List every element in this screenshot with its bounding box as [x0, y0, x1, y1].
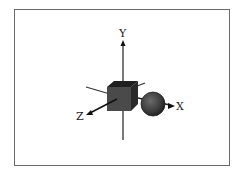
y-axis-label: Y [118, 27, 127, 40]
cube-front-face [107, 87, 131, 111]
cube [107, 81, 138, 111]
axes-diagram: Y X Z [0, 0, 240, 176]
sphere [141, 92, 165, 116]
back-axis-line-left [86, 87, 110, 94]
x-axis-arrowhead-icon [168, 103, 175, 109]
z-axis-arrowhead-icon [86, 110, 93, 115]
z-axis-label: Z [76, 110, 84, 123]
y-axis-arrowhead-icon [121, 40, 126, 46]
x-axis-label: X [176, 100, 184, 113]
